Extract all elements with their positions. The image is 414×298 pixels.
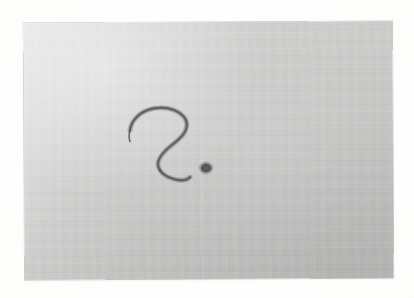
question-mark-hook-stroke <box>130 108 190 181</box>
question-mark-hook-entry <box>129 130 130 141</box>
paper-sheet <box>23 21 393 280</box>
ink-drawing-layer <box>23 21 393 280</box>
question-mark-dot-halo <box>199 162 214 175</box>
question-mark-hook-halo <box>130 108 190 181</box>
paper-texture-overlay <box>23 21 393 280</box>
question-mark-icon <box>23 21 393 280</box>
paper-lighting-overlay <box>23 21 393 280</box>
photo-scene <box>0 0 414 298</box>
question-mark-dot <box>201 164 212 173</box>
paper-crease-line <box>200 22 204 279</box>
